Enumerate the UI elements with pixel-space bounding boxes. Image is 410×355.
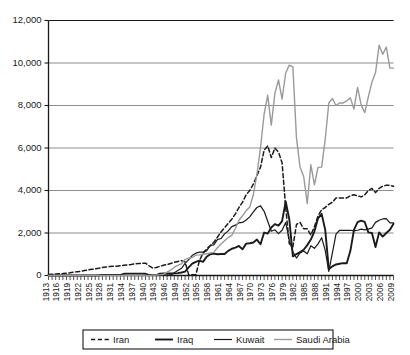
x-axis-tick-label: 1976 — [268, 283, 277, 302]
y-axis-tick-label: 8,000 — [18, 99, 42, 110]
x-axis-tick-label: 1979 — [279, 283, 288, 302]
x-axis-tick-label: 1919 — [63, 283, 72, 302]
x-axis-tick-label: 1946 — [160, 283, 169, 302]
series-line-iran — [49, 146, 394, 275]
x-axis-tick-label: 1958 — [203, 283, 212, 302]
y-axis-tick-label: 6,000 — [18, 142, 42, 153]
x-axis-tick-label: 1922 — [74, 283, 83, 302]
x-axis-tick-label: 1931 — [106, 283, 115, 302]
x-axis-tick-label: 1997 — [343, 283, 352, 302]
x-axis-tick-label: 1973 — [257, 283, 266, 302]
x-axis-tick-label: 2006 — [376, 283, 385, 302]
y-axis-tick-label: 2,000 — [18, 227, 42, 238]
x-axis-tick-label: 1928 — [95, 283, 104, 302]
x-axis-tick-label: 2000 — [354, 283, 363, 302]
y-axis-tick-label: 4,000 — [18, 184, 42, 195]
x-axis-tick-label: 1967 — [236, 283, 245, 302]
x-axis-tick-label: 1970 — [246, 283, 255, 302]
chart-canvas: 02,0004,0006,0008,00010,00012,000 191319… — [0, 0, 410, 355]
x-axis-tick-label: 1925 — [85, 283, 94, 302]
line-chart: 02,0004,0006,0008,00010,00012,000 191319… — [0, 0, 410, 355]
series-line-saudi-arabia — [49, 45, 394, 275]
x-axis-tick-label: 1913 — [42, 283, 51, 302]
data-series-group — [49, 45, 394, 275]
legend-label-iran: Iran — [113, 334, 129, 345]
x-axis-tick-label: 2009 — [387, 283, 396, 302]
x-axis-tick-label: 1934 — [117, 283, 126, 302]
x-axis-tick-label: 1916 — [52, 283, 61, 302]
y-axis-tick-label: 10,000 — [12, 57, 41, 68]
x-axis-tick-label: 1985 — [300, 283, 309, 302]
x-axis-tick-label: 1949 — [171, 283, 180, 302]
x-axis-tick-label: 1961 — [214, 283, 223, 302]
y-axis-tick-label: 12,000 — [12, 14, 41, 25]
y-axis-tick-label: 0 — [36, 269, 41, 280]
x-axis-tick-label: 1940 — [139, 283, 148, 302]
legend: IranIraqKuwaitSaudi Arabia — [83, 330, 351, 349]
legend-label-saudi-arabia: Saudi Arabia — [296, 334, 351, 345]
x-axis-tick-label: 1991 — [322, 283, 331, 302]
x-axis-tick-label: 1943 — [149, 283, 158, 302]
x-axis-labels: 1913191619191922192519281931193419371940… — [42, 283, 396, 302]
x-axis-tick-label: 1955 — [192, 283, 201, 302]
series-line-kuwait — [49, 206, 394, 276]
x-axis-tick-label: 1982 — [289, 283, 298, 302]
legend-label-kuwait: Kuwait — [236, 334, 265, 345]
legend-label-iraq: Iraq — [177, 334, 193, 345]
y-axis-labels: 02,0004,0006,0008,00010,00012,000 — [12, 14, 48, 280]
grid-lines — [49, 21, 394, 234]
x-axis-tick-label: 1964 — [225, 283, 234, 302]
x-axis-tick-label: 1952 — [182, 283, 191, 302]
x-axis-tick-label: 1937 — [128, 283, 137, 302]
x-axis-tick-label: 1988 — [311, 283, 320, 302]
x-axis-tick-label: 2003 — [365, 283, 374, 302]
x-axis-tick-label: 1994 — [333, 283, 342, 302]
